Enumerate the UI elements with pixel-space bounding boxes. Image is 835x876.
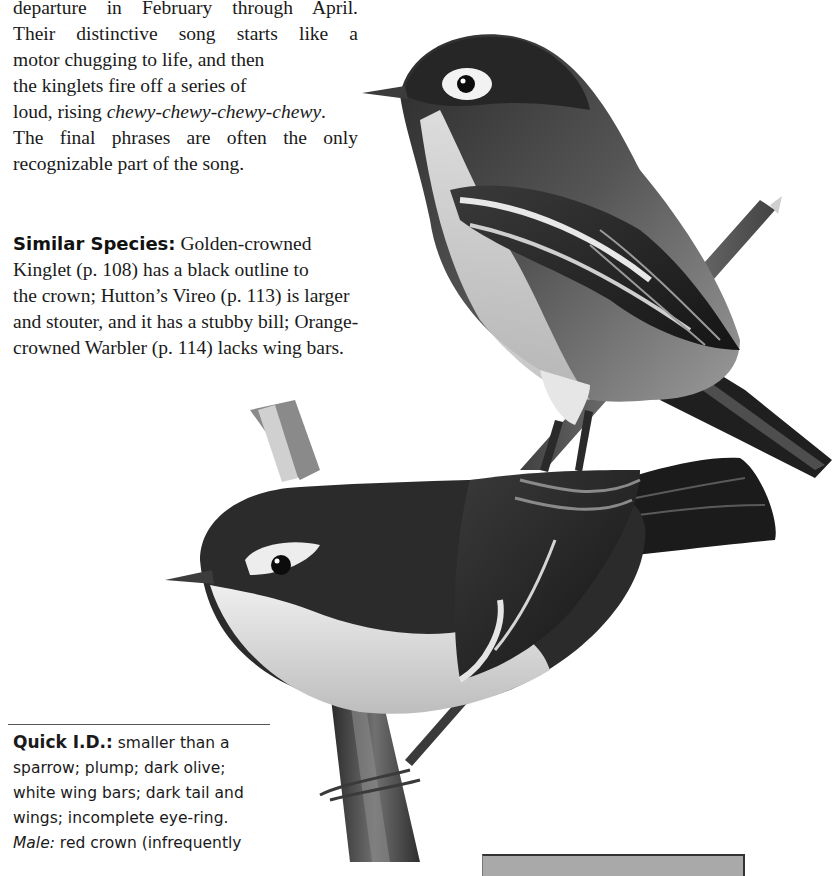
text-line: white wing bars; dark tail and [13, 781, 288, 806]
text-line: Their distinctive song starts like a [13, 21, 358, 47]
similar-species-paragraph: Similar Species: Golden-crowned Kinglet … [13, 231, 433, 361]
text-segment: . [321, 101, 326, 122]
text-line: The final phrases are often the only [13, 125, 358, 151]
text-line: motor chugging to life, and then [13, 47, 358, 73]
text-line: loud, rising chewy-chewy-chewy-chewy. [13, 99, 358, 125]
upper-branch [520, 196, 782, 470]
text-line: Kinglet (p. 108) has a black outline to [13, 257, 433, 283]
text-line: wings; incomplete eye-ring. [13, 806, 288, 831]
section-divider [8, 724, 270, 725]
text-line: Quick I.D.: smaller than a [13, 730, 288, 756]
text-line: departure in February through April. [13, 0, 358, 21]
text-segment: Golden-crowned [176, 233, 312, 254]
range-map-box [482, 854, 745, 876]
text-segment: smaller than a [113, 734, 230, 752]
song-phrase-italic: chewy-chewy-chewy-chewy [107, 101, 321, 122]
text-line: crowned Warbler (p. 114) lacks wing bars… [13, 335, 433, 361]
quick-id-label: Quick I.D.: [13, 732, 113, 752]
similar-species-label: Similar Species: [13, 233, 176, 254]
text-line: and stouter, and it has a stubby bill; O… [13, 309, 433, 335]
song-description-paragraph: departure in February through April. The… [13, 0, 358, 177]
text-line: sparrow; plump; dark olive; [13, 756, 288, 781]
text-segment: red crown (infrequently [55, 834, 242, 852]
text-line: Similar Species: Golden-crowned [13, 231, 433, 257]
text-segment: loud, rising [13, 101, 107, 122]
thin-twig [405, 614, 540, 766]
text-line: Male: red crown (infrequently [13, 831, 288, 856]
male-label: Male: [13, 834, 55, 852]
text-line: recognizable part of the song. [13, 151, 358, 177]
text-line: the kinglets fire off a series of [13, 73, 358, 99]
text-line: the crown; Hutton’s Vireo (p. 113) is la… [13, 283, 433, 309]
quick-id-paragraph: Quick I.D.: smaller than a sparrow; plum… [13, 730, 288, 856]
